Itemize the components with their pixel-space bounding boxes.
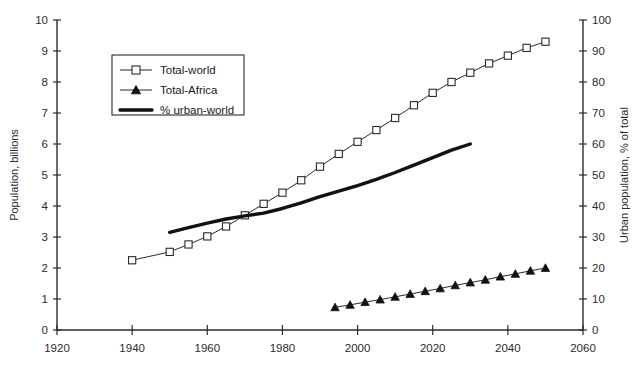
data-point-total-world — [129, 257, 136, 264]
data-point-total-world — [373, 126, 380, 133]
y-tick-label-right: 0 — [592, 324, 598, 336]
y-tick-label-left: 6 — [42, 138, 48, 150]
data-point-total-world — [485, 60, 492, 67]
chart-legend: Total-worldTotal-Africa% urban-world — [112, 55, 244, 116]
x-tick-label: 1920 — [44, 342, 70, 354]
y-tick-label-left: 1 — [42, 293, 48, 305]
y-tick-label-left: 9 — [42, 45, 48, 57]
chart-figure: 0123456789100102030405060708090100192019… — [0, 0, 641, 365]
data-point-total-world — [260, 200, 267, 207]
data-point-total-africa — [541, 264, 549, 272]
legend-label-text: Total-Africa — [160, 84, 218, 96]
data-point-total-world — [523, 44, 530, 51]
data-point-total-world — [298, 177, 305, 184]
data-point-total-world — [429, 89, 436, 96]
y-tick-label-right: 50 — [592, 169, 605, 181]
y-tick-label-right: 70 — [592, 107, 605, 119]
y-tick-label-left: 0 — [42, 324, 48, 336]
chart-axis-titles: Population, billionsUrban population, % … — [8, 107, 630, 243]
legend-label-text: % urban-world — [160, 104, 234, 116]
data-point-total-world — [279, 189, 286, 196]
y-tick-label-right: 10 — [592, 293, 605, 305]
data-point-total-world — [410, 102, 417, 109]
y-tick-label-left: 8 — [42, 76, 48, 88]
series-line-urban-world — [170, 144, 471, 232]
y-tick-label-right: 90 — [592, 45, 605, 57]
x-tick-label: 2040 — [495, 342, 521, 354]
population-urbanization-line-chart: 0123456789100102030405060708090100192019… — [0, 0, 641, 365]
data-point-total-world — [185, 241, 192, 248]
y-tick-label-left: 2 — [42, 262, 48, 274]
data-point-total-world — [222, 223, 229, 230]
y-tick-label-left: 5 — [42, 169, 48, 181]
y-tick-label-left: 10 — [35, 14, 48, 26]
y-tick-label-left: 7 — [42, 107, 48, 119]
data-point-total-world — [354, 138, 361, 145]
x-tick-label: 1960 — [194, 342, 220, 354]
data-point-total-world — [316, 163, 323, 170]
y-tick-label-right: 30 — [592, 231, 605, 243]
legend-item-total-world[interactable]: Total-world — [120, 64, 216, 76]
data-point-total-world — [335, 150, 342, 157]
y-tick-label-left: 4 — [42, 200, 49, 212]
data-point-total-world — [504, 52, 511, 59]
x-tick-label: 2000 — [345, 342, 371, 354]
data-point-total-world — [392, 114, 399, 121]
y-tick-label-right: 20 — [592, 262, 605, 274]
y-tick-label-right: 60 — [592, 138, 605, 150]
y-tick-label-right: 40 — [592, 200, 605, 212]
y-axis-right-title: Urban population, % of total — [618, 107, 630, 243]
legend-label-text: Total-world — [160, 64, 216, 76]
y-tick-label-left: 3 — [42, 231, 48, 243]
x-tick-label: 2060 — [570, 342, 596, 354]
y-tick-label-right: 80 — [592, 76, 605, 88]
data-point-total-world — [542, 38, 549, 45]
data-point-total-world — [448, 78, 455, 85]
data-point-total-world — [204, 233, 211, 240]
y-tick-label-right: 100 — [592, 14, 611, 26]
data-point-total-world — [467, 69, 474, 76]
data-point-total-world — [166, 248, 173, 255]
x-tick-label: 1940 — [119, 342, 145, 354]
x-tick-label: 1980 — [270, 342, 296, 354]
x-tick-label: 2020 — [420, 342, 446, 354]
y-axis-left-title: Population, billions — [8, 129, 20, 221]
legend-open-square-icon — [132, 66, 140, 74]
